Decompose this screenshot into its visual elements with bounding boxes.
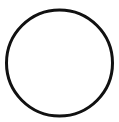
diagram-canvas — [0, 0, 119, 122]
circle-outline-icon — [0, 0, 119, 122]
circle-shape — [7, 10, 113, 116]
